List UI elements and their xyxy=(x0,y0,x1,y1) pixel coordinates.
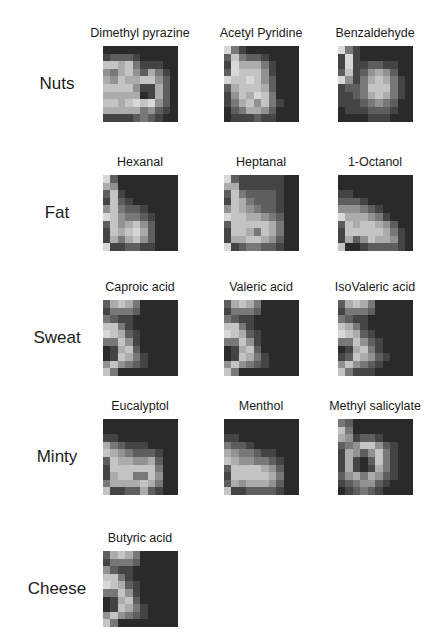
heatmap-cell xyxy=(239,76,247,84)
heatmap-cell xyxy=(261,183,269,191)
heatmap-cell xyxy=(338,92,346,100)
heatmap-cell xyxy=(140,69,148,77)
heatmap-cell xyxy=(231,46,239,54)
heatmap-cell xyxy=(140,198,148,206)
heatmap-cell xyxy=(398,457,406,465)
heatmap-cell xyxy=(118,346,126,354)
heatmap-title: 1-Octanol xyxy=(318,155,432,169)
heatmap-cell xyxy=(231,76,239,84)
heatmap-cell xyxy=(155,92,163,100)
heatmap-cell xyxy=(269,442,277,450)
heatmap-cell xyxy=(239,46,247,54)
heatmap-cell xyxy=(140,597,148,605)
heatmap-cell xyxy=(398,427,406,435)
heatmap-cell xyxy=(231,300,239,308)
heatmap-cell xyxy=(375,205,383,213)
heatmap-cell xyxy=(163,213,171,221)
heatmap-cell xyxy=(224,213,232,221)
heatmap-cell xyxy=(140,465,148,473)
heatmap-cell xyxy=(368,368,376,376)
heatmap-cell xyxy=(360,315,368,323)
heatmap-cell xyxy=(269,427,277,435)
heatmap-cell xyxy=(155,61,163,69)
heatmap-cell xyxy=(353,323,361,331)
heatmap-cell xyxy=(118,427,126,435)
heatmap-cell xyxy=(261,338,269,346)
heatmap-cell xyxy=(224,243,232,251)
heatmap-cell xyxy=(338,323,346,331)
heatmap-cell xyxy=(276,236,284,244)
heatmap-cell xyxy=(405,221,413,229)
heatmap-cell xyxy=(246,243,254,251)
heatmap-cell xyxy=(246,361,254,369)
heatmap-cell xyxy=(133,236,141,244)
heatmap-cell xyxy=(353,368,361,376)
heatmap-cell xyxy=(103,353,111,361)
heatmap-cell xyxy=(170,175,178,183)
heatmap-cell xyxy=(276,69,284,77)
heatmap-cell xyxy=(375,487,383,495)
heatmap-cell xyxy=(368,361,376,369)
heatmap-cell xyxy=(276,175,284,183)
heatmap-cell xyxy=(246,190,254,198)
heatmap-cell xyxy=(224,114,232,122)
heatmap-cell xyxy=(398,449,406,457)
heatmap-cell xyxy=(118,353,126,361)
heatmap-cell xyxy=(155,183,163,191)
heatmap-cell xyxy=(103,472,111,480)
heatmap-cell xyxy=(383,213,391,221)
heatmap-cell xyxy=(269,69,277,77)
heatmap-cell xyxy=(163,472,171,480)
heatmap-cell xyxy=(254,198,262,206)
heatmap-cell xyxy=(224,368,232,376)
heatmap-cell xyxy=(390,46,398,54)
heatmap-cell xyxy=(276,487,284,495)
heatmap-cell xyxy=(140,427,148,435)
heatmap-cell xyxy=(133,465,141,473)
heatmap-cell xyxy=(163,107,171,115)
heatmap-cell xyxy=(133,205,141,213)
heatmap-cell xyxy=(360,457,368,465)
heatmap-cell xyxy=(360,213,368,221)
heatmap-cell xyxy=(269,205,277,213)
heatmap-cell xyxy=(261,92,269,100)
heatmap-cell xyxy=(155,480,163,488)
heatmap-grid xyxy=(103,46,178,122)
heatmap-cell xyxy=(254,300,262,308)
heatmap-cell xyxy=(383,175,391,183)
heatmap-cell xyxy=(125,205,133,213)
heatmap-cell xyxy=(118,228,126,236)
heatmap-cell xyxy=(133,419,141,427)
heatmap-cell xyxy=(398,472,406,480)
heatmap-cell xyxy=(170,597,178,605)
heatmap-cell xyxy=(163,228,171,236)
heatmap-cell xyxy=(224,221,232,229)
heatmap-cell xyxy=(140,300,148,308)
heatmap-cell xyxy=(368,243,376,251)
heatmap-cell xyxy=(383,442,391,450)
heatmap-cell xyxy=(140,581,148,589)
heatmap-cell xyxy=(398,346,406,354)
heatmap-cell xyxy=(103,61,111,69)
heatmap-cell xyxy=(246,480,254,488)
heatmap-cell xyxy=(103,183,111,191)
heatmap-cell xyxy=(353,107,361,115)
heatmap-cell xyxy=(125,69,133,77)
heatmap-cell xyxy=(254,427,262,435)
heatmap-cell xyxy=(291,449,299,457)
heatmap-cell xyxy=(140,559,148,567)
heatmap-cell xyxy=(368,54,376,62)
heatmap-cell xyxy=(118,300,126,308)
heatmap-cell xyxy=(170,198,178,206)
heatmap-cell xyxy=(291,221,299,229)
heatmap-panel: Dimethyl pyrazine xyxy=(83,26,197,122)
heatmap-cell xyxy=(261,205,269,213)
heatmap-cell xyxy=(246,338,254,346)
heatmap-cell xyxy=(398,183,406,191)
heatmap-cell xyxy=(276,213,284,221)
heatmap-cell xyxy=(383,427,391,435)
heatmap-cell xyxy=(405,183,413,191)
heatmap-cell xyxy=(375,300,383,308)
heatmap-cell xyxy=(133,61,141,69)
heatmap-cell xyxy=(239,442,247,450)
